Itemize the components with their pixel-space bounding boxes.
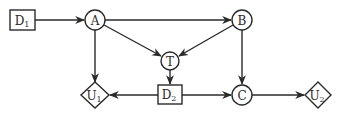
- svg-text:B: B: [238, 14, 247, 28]
- influence-diagram: D1 A B T D2 U1 C U2: [0, 0, 344, 118]
- node-a: A: [85, 10, 105, 30]
- edge-b-t: [179, 25, 233, 56]
- node-b: B: [232, 10, 252, 30]
- node-d2: D2: [158, 85, 182, 104]
- node-t: T: [161, 52, 179, 70]
- node-c: C: [232, 85, 252, 105]
- node-d1: D1: [10, 10, 35, 30]
- svg-text:A: A: [90, 14, 100, 28]
- edge-a-t: [104, 25, 161, 56]
- svg-text:T: T: [166, 55, 174, 69]
- node-u1: U1: [81, 82, 109, 108]
- node-u2: U2: [305, 82, 331, 108]
- svg-text:C: C: [237, 89, 246, 103]
